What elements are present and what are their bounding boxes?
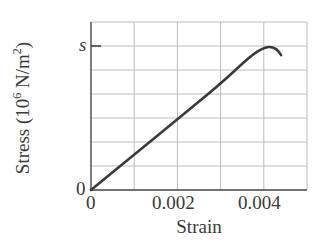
x-tick-0: 0	[86, 192, 96, 214]
x-tick-0.004: 0.004	[238, 192, 281, 214]
stress-strain-chart: Stress (106 N/m2) s 0 0 0.002 0.004 Stra…	[0, 0, 316, 246]
stress-strain-line	[91, 47, 281, 190]
x-tick-0.002: 0.002	[152, 192, 195, 214]
y-tick-0: 0	[76, 178, 86, 200]
y-axis-label: Stress (106 N/m2)	[10, 42, 33, 174]
x-axis-label: Strain	[176, 216, 221, 238]
y-tick-s: s	[79, 34, 86, 56]
